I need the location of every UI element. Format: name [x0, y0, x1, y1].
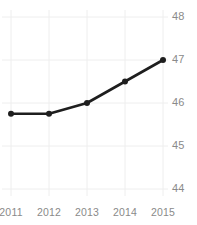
- data-point-2015: [160, 57, 166, 63]
- y-tick-label-47: 47: [172, 53, 185, 65]
- y-tick-label-48: 48: [172, 10, 185, 22]
- x-tick-label-2011: 2011: [0, 206, 23, 218]
- y-tick-label-46: 46: [172, 96, 185, 108]
- chart-plot-area: [0, 0, 197, 225]
- line-chart: 4445464748 20112012201320142015: [0, 0, 197, 225]
- y-tick-label-44: 44: [172, 182, 185, 194]
- data-point-2013: [84, 100, 90, 106]
- y-tick-label-45: 45: [172, 139, 185, 151]
- x-tick-label-2015: 2015: [151, 206, 175, 218]
- x-tick-label-2013: 2013: [75, 206, 99, 218]
- x-tick-label-2012: 2012: [37, 206, 61, 218]
- x-tick-label-2014: 2014: [113, 206, 137, 218]
- data-point-2014: [122, 79, 128, 85]
- data-point-2011: [8, 111, 14, 117]
- data-point-2012: [46, 111, 52, 117]
